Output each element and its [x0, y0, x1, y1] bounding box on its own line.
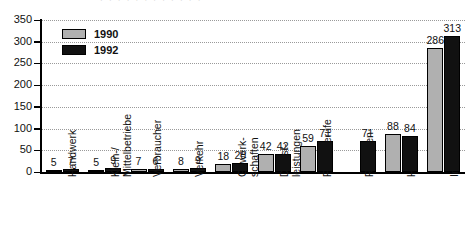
bar[interactable] [300, 146, 316, 172]
legend-label: 1992 [94, 45, 118, 56]
y-tick-label: 200 [2, 79, 32, 90]
y-tick-label: 300 [2, 36, 32, 47]
y-tick-label-wrap: 300 [0, 36, 32, 37]
bar[interactable] [215, 164, 231, 172]
legend-item[interactable]: 1990 [62, 27, 118, 41]
bar-value-label: 286 [421, 35, 449, 46]
bar[interactable] [173, 169, 189, 172]
category-label: Freie Berufe [322, 111, 334, 177]
y-tick-label: 50 [2, 144, 32, 155]
y-tick-label-wrap: 200 [0, 79, 32, 80]
y-tick-label-wrap: 350 [0, 14, 32, 15]
gridline [41, 63, 465, 64]
bar-value-label: 313 [438, 23, 466, 34]
category-label: Verbraucher [152, 111, 164, 177]
legend-swatch [62, 45, 86, 55]
legend-label: 1990 [94, 29, 118, 40]
y-tick-label-wrap: 50 [0, 144, 32, 145]
legend-item[interactable]: 1992 [62, 43, 118, 57]
bar[interactable] [385, 134, 401, 172]
bar[interactable] [427, 48, 443, 172]
y-tick-label-wrap: 250 [0, 57, 32, 58]
bar[interactable] [88, 170, 104, 173]
category-label: Verkehr [194, 111, 206, 177]
category-label: Handel [406, 111, 418, 177]
bar[interactable] [46, 170, 62, 173]
legend: 19901992 [62, 27, 118, 59]
y-tick-label-wrap: 150 [0, 101, 32, 102]
gridline [41, 20, 465, 21]
category-label: Industrie [449, 111, 461, 177]
category-label: Dienst- leistungen [279, 111, 302, 177]
gridline [41, 107, 465, 108]
bar[interactable] [258, 154, 274, 172]
y-axis-line [40, 19, 42, 173]
category-label: Gewerk- schaften [237, 111, 260, 177]
y-tick-label: 350 [2, 14, 32, 25]
y-tick-label: 150 [2, 101, 32, 112]
category-label: Klein-/ Mittelbetriebe [110, 111, 133, 177]
y-tick-label: 100 [2, 123, 32, 134]
y-tick-label-wrap: 0 [0, 166, 32, 167]
y-tick-label-wrap: 100 [0, 123, 32, 124]
y-tick-label: 0 [2, 166, 32, 177]
legend-swatch [62, 29, 86, 39]
clipped-title-artifact: · · · · · · · · · · · · [100, 0, 400, 4]
gridline [41, 85, 465, 86]
bar-chart: · · · · · · · · · · · · 0501001502002503… [0, 0, 472, 245]
category-label: Regionen [364, 111, 376, 177]
y-tick-label: 250 [2, 57, 32, 68]
category-label: Handwerk [67, 111, 79, 177]
